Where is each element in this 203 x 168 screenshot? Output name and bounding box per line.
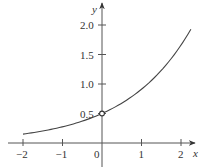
data-curve bbox=[23, 29, 191, 134]
x-tick-label: 0 bbox=[94, 148, 100, 160]
open-point-marker bbox=[100, 111, 105, 116]
ticks: −2−10120.51.01.52.0 bbox=[16, 19, 184, 160]
x-tick-label: −2 bbox=[16, 148, 28, 160]
chart: xy −2−10120.51.01.52.0 bbox=[0, 0, 203, 168]
y-tick-label: 1.5 bbox=[80, 49, 94, 61]
y-axis-label: y bbox=[91, 3, 97, 15]
annotations bbox=[100, 111, 105, 116]
y-tick-label: 1.0 bbox=[80, 78, 94, 90]
x-tick-label: −1 bbox=[56, 148, 68, 160]
x-tick-label: 1 bbox=[139, 148, 145, 160]
axes: xy bbox=[8, 3, 198, 167]
x-tick-label: 2 bbox=[178, 148, 184, 160]
x-axis-label: x bbox=[192, 147, 198, 159]
y-tick-label: 2.0 bbox=[80, 19, 94, 31]
